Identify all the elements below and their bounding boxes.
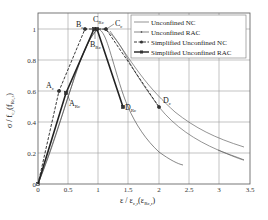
y-axis-label: σ / fc,r(fRc,r) <box>5 93 16 128</box>
y-tick: 0.4 <box>27 119 36 127</box>
label-CRc: CRc <box>93 15 105 25</box>
stress-strain-chart: 0 0.2 0.4 0.6 0.8 1 0 0.5 1 1.5 2 2.5 3 … <box>0 0 268 220</box>
x-tick: 2 <box>157 186 161 194</box>
marker-Bc <box>83 27 86 30</box>
svg-text:Simplified Unconfined NC: Simplified Unconfined NC <box>151 39 227 47</box>
x-axis-label: ε / εc,r(εRc,r) <box>120 196 156 207</box>
legend: Unconfined NC Unconfined RAC Simplified … <box>131 15 246 58</box>
label-Bc: Bc <box>76 20 84 30</box>
x-tick: 1.5 <box>124 186 133 194</box>
marker-Ac <box>57 89 60 92</box>
y-tick: 0.6 <box>27 88 36 96</box>
marker-Cc <box>104 27 107 30</box>
x-tick: 0.5 <box>64 186 73 194</box>
svg-text:Unconfined RAC: Unconfined RAC <box>151 29 201 37</box>
series-unconfined-nc-tail <box>218 150 244 160</box>
y-tick: 0.2 <box>27 150 36 158</box>
marker-BRc <box>93 28 96 31</box>
label-Cc: Cc <box>115 19 123 29</box>
x-axis-ticks: 0 0.5 1 1.5 2 2.5 3 3.5 <box>36 186 255 194</box>
y-tick: 1 <box>33 26 37 34</box>
label-DRc: DRc <box>125 103 137 113</box>
marker-ARc <box>65 92 68 95</box>
y-tick: 0.8 <box>27 57 36 65</box>
marker-CRc <box>96 28 99 31</box>
label-Dc: Dc <box>163 96 172 106</box>
x-tick: 3 <box>217 186 221 194</box>
label-BRc: BRc <box>90 40 102 50</box>
label-Ac: Ac <box>46 81 55 91</box>
svg-text:Simplified Unconfined RAC: Simplified Unconfined RAC <box>151 49 232 57</box>
x-tick: 0 <box>36 186 40 194</box>
x-tick: 1 <box>96 186 100 194</box>
svg-text:Unconfined NC: Unconfined NC <box>151 19 196 27</box>
y-axis-ticks: 0 0.2 0.4 0.6 0.8 1 <box>27 26 36 189</box>
marker-Dc <box>157 105 160 108</box>
x-tick: 2.5 <box>185 186 194 194</box>
x-tick: 3.5 <box>246 186 255 194</box>
label-ARc: ARc <box>69 99 81 109</box>
